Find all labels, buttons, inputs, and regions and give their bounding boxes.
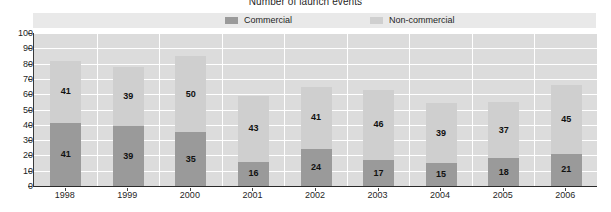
bar-value-label: 35 [186, 155, 196, 164]
y-axis-tick-mark [28, 125, 32, 126]
y-axis-tick-mark [28, 48, 32, 49]
bar-segment-non-commercial[interactable]: 39 [113, 67, 144, 127]
plot-area: 414139393550164324411746153918372145 [33, 33, 597, 187]
x-axis-tick-label: 1999 [107, 191, 147, 200]
bar-value-label: 16 [248, 169, 258, 178]
bar-segment-non-commercial[interactable]: 39 [426, 103, 457, 163]
gridline-vertical [222, 33, 223, 186]
y-axis: 1009080706050403020100 [0, 33, 33, 187]
bar-segment-commercial[interactable]: 41 [50, 123, 81, 186]
legend-entry-commercial[interactable]: Commercial [225, 13, 292, 28]
bar-value-label: 39 [436, 129, 446, 138]
x-axis-tick-mark [190, 188, 191, 191]
legend-label: Non-commercial [389, 16, 455, 25]
y-axis-tick-mark [28, 155, 32, 156]
bar-segment-commercial[interactable]: 21 [551, 154, 582, 186]
bar-segment-commercial[interactable]: 15 [426, 163, 457, 186]
bar-segment-non-commercial[interactable]: 45 [551, 85, 582, 154]
legend-label: Commercial [244, 16, 292, 25]
gridline-vertical [347, 33, 348, 186]
bar-value-label: 15 [436, 170, 446, 179]
bar-value-label: 39 [123, 152, 133, 161]
x-axis-tick-mark [127, 188, 128, 191]
bar-value-label: 41 [61, 87, 71, 96]
bar-value-label: 37 [499, 126, 509, 135]
bar-value-label: 39 [123, 92, 133, 101]
x-axis-tick-label: 2001 [232, 191, 272, 200]
x-axis-tick-mark [440, 188, 441, 191]
x-axis-tick-mark [65, 188, 66, 191]
gridline-vertical [284, 33, 285, 186]
bar-segment-non-commercial[interactable]: 37 [488, 102, 519, 159]
bar-group[interactable]: 3550 [175, 56, 206, 186]
bar-segment-commercial[interactable]: 17 [363, 160, 394, 186]
x-axis-tick-mark [252, 188, 253, 191]
y-axis-tick-mark [28, 94, 32, 95]
gridline-horizontal [34, 64, 597, 65]
chart-legend: CommercialNon-commercial [33, 13, 596, 28]
bar-group[interactable]: 3939 [113, 67, 144, 186]
x-axis-tick-label: 2003 [358, 191, 398, 200]
y-axis-tick-mark [28, 64, 32, 65]
x-axis-tick-mark [503, 188, 504, 191]
bar-value-label: 46 [374, 120, 384, 129]
bar-segment-commercial[interactable]: 39 [113, 126, 144, 186]
gridline-vertical [159, 33, 160, 186]
bar-group[interactable]: 4141 [50, 61, 81, 186]
bar-value-label: 43 [248, 124, 258, 133]
y-axis-tick-mark [28, 186, 32, 187]
bar-value-label: 41 [61, 150, 71, 159]
gridline-vertical [97, 33, 98, 186]
bar-segment-commercial[interactable]: 35 [175, 132, 206, 186]
bar-group[interactable]: 1837 [488, 102, 519, 186]
bar-value-label: 18 [499, 168, 509, 177]
gridline-vertical [534, 33, 535, 186]
bar-group[interactable]: 2441 [301, 87, 332, 186]
x-axis-tick-mark [378, 188, 379, 191]
gridline-vertical [472, 33, 473, 186]
bar-segment-non-commercial[interactable]: 46 [363, 90, 394, 160]
y-axis-tick-mark [28, 110, 32, 111]
bar-value-label: 45 [561, 115, 571, 124]
bar-segment-non-commercial[interactable]: 41 [50, 61, 81, 124]
bar-value-label: 50 [186, 90, 196, 99]
gridline-vertical [409, 33, 410, 186]
bar-group[interactable]: 2145 [551, 85, 582, 186]
bar-value-label: 24 [311, 163, 321, 172]
bar-group[interactable]: 1539 [426, 103, 457, 186]
bar-value-label: 21 [561, 165, 571, 174]
x-axis-tick-label: 2002 [295, 191, 335, 200]
chart-title: Number of launch events [0, 0, 611, 7]
y-axis-tick-mark [28, 171, 32, 172]
x-axis-tick-mark [315, 188, 316, 191]
bar-segment-commercial[interactable]: 18 [488, 158, 519, 186]
gridline-horizontal [34, 33, 597, 34]
bar-segment-commercial[interactable]: 16 [238, 162, 269, 186]
y-axis-tick-mark [28, 79, 32, 80]
bar-segment-commercial[interactable]: 24 [301, 149, 332, 186]
bar-value-label: 17 [374, 169, 384, 178]
bar-segment-non-commercial[interactable]: 50 [175, 56, 206, 133]
bar-value-label: 41 [311, 113, 321, 122]
y-axis-tick-mark [28, 33, 32, 34]
x-axis-tick-label: 2005 [483, 191, 523, 200]
stacked-bar-chart: Number of launch events CommercialNon-co… [0, 0, 611, 212]
bar-segment-non-commercial[interactable]: 41 [301, 87, 332, 150]
x-axis: 199819992000200120022003200420052006 [33, 188, 596, 204]
y-axis-tick-mark [28, 140, 32, 141]
x-axis-tick-label: 2006 [545, 191, 585, 200]
x-axis-tick-mark [565, 188, 566, 191]
legend-swatch-icon [225, 17, 238, 24]
x-axis-tick-label: 1998 [45, 191, 85, 200]
x-axis-tick-label: 2004 [420, 191, 460, 200]
legend-swatch-icon [370, 17, 383, 24]
x-axis-tick-label: 2000 [170, 191, 210, 200]
bar-segment-non-commercial[interactable]: 43 [238, 96, 269, 162]
gridline-horizontal [34, 48, 597, 49]
legend-entry-non-commercial[interactable]: Non-commercial [370, 13, 455, 28]
bar-group[interactable]: 1746 [363, 90, 394, 186]
bar-group[interactable]: 1643 [238, 96, 269, 186]
